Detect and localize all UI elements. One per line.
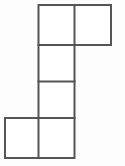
polyomino-figure — [0, 0, 125, 166]
cell-r0c1 — [39, 5, 75, 45]
cell-r0c2 — [75, 5, 112, 45]
cell-r3c0 — [5, 118, 39, 158]
figure-canvas — [0, 0, 125, 166]
cell-r2c1 — [39, 82, 75, 119]
cell-r1c1 — [39, 45, 75, 82]
cell-r3c1 — [39, 118, 75, 158]
